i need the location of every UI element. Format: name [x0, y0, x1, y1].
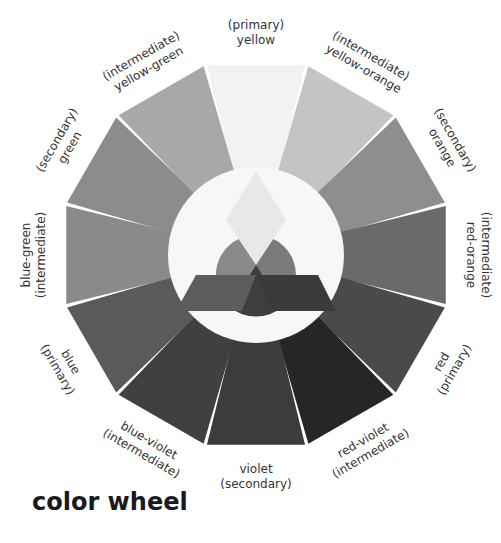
label-line-1: violet [239, 462, 272, 476]
label-line-1: (primary) [228, 18, 284, 32]
label-blue: blue(primary) [38, 334, 91, 397]
label-red: red(primary) [421, 334, 474, 397]
label-line-2: yellow [237, 33, 275, 47]
label-line-2: (secondary) [220, 477, 292, 491]
label-yellow: (primary)yellow [228, 18, 284, 47]
label-line-1: (intermediate) [479, 212, 493, 299]
label-orange: (secondary)orange [418, 106, 479, 182]
label-red-orange: (intermediate)red-orange [464, 212, 493, 299]
label-line-1: blue-green [19, 223, 33, 288]
label-line-2: (intermediate) [34, 212, 48, 299]
diagram-title: color wheel [32, 488, 188, 516]
label-green: (secondary)green [33, 106, 94, 182]
color-wheel: (primary)yellow(intermediate)yellow-oran… [0, 0, 501, 543]
label-violet: violet(secondary) [220, 462, 292, 491]
label-blue-green: blue-green(intermediate) [19, 212, 48, 299]
label-line-2: red-orange [464, 222, 478, 288]
